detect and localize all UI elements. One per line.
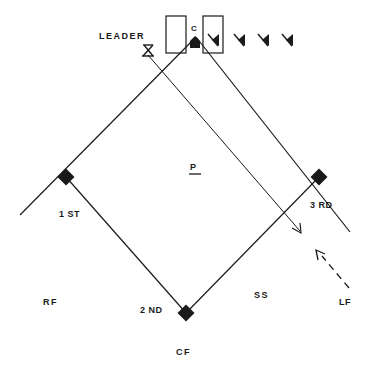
second-base-label: 2 ND <box>140 305 163 315</box>
shortstop-label: SS <box>254 290 269 300</box>
queued-player-3-icon <box>258 34 269 46</box>
baseline-home-to-first <box>20 37 196 215</box>
first-base-label: 1 ST <box>59 209 80 219</box>
batter-box-left <box>166 16 186 53</box>
queued-player-2-icon <box>234 34 245 46</box>
left-field-label: LF <box>339 297 351 307</box>
baseline-third-to-second <box>186 177 319 313</box>
leader-label: LEADER <box>99 31 145 41</box>
runner-dashed-arrow <box>316 250 349 288</box>
home-plate-icon <box>190 36 200 48</box>
queued-player-4-icon <box>282 34 293 46</box>
third-base-label: 3 RD <box>310 200 333 210</box>
field-diagram <box>0 0 369 372</box>
catcher-label: C <box>191 24 198 33</box>
pitcher-label: P <box>190 162 198 172</box>
center-field-label: CF <box>176 347 191 357</box>
queued-player-1-icon <box>208 34 219 46</box>
baseline-first-to-second <box>66 177 186 313</box>
throw-arrow <box>148 55 301 233</box>
leader-marker-icon <box>142 45 154 56</box>
batter-box-right <box>203 16 223 53</box>
right-field-label: RF <box>43 297 58 307</box>
